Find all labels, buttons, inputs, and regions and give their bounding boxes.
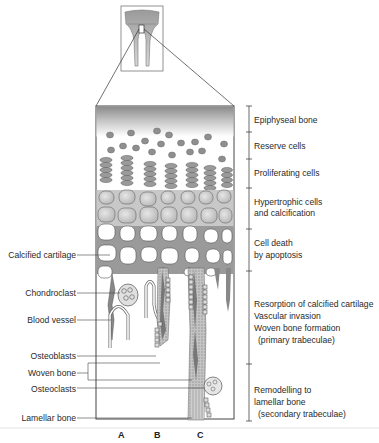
zone-label-resorption: Resorption of calcified cartilage (254, 299, 373, 310)
zone-label-cell-death: Cell death (254, 238, 293, 249)
zone-label-lamellar-bone: lamellar bone (254, 397, 306, 408)
zone-label-hypertrophic: Hypertrophic cells (254, 197, 322, 208)
zone-scale-bar (246, 106, 252, 421)
label-woven-bone: Woven bone (28, 368, 76, 379)
zone-label-remodelling: Remodelling to (254, 385, 311, 396)
zone-label-primary-trabeculae: (primary trabeculae) (258, 335, 335, 346)
chondroclast (118, 284, 138, 306)
column-label-b: B (154, 430, 161, 440)
inset-bone (121, 6, 163, 71)
column-label-a: A (118, 430, 125, 440)
label-lamellar-bone: Lamellar bone (22, 413, 76, 424)
zone-label-secondary-trabeculae: (secondary trabeculae) (258, 409, 346, 420)
zone-label-epiphyseal-bone: Epiphyseal bone (254, 115, 318, 126)
zone-label-hypertrophic-2: and calcification (254, 208, 315, 219)
label-chondroclast: Chondroclast (25, 288, 76, 299)
label-osteoblasts: Osteoblasts (31, 351, 76, 362)
zone-label-vascular-invasion: Vascular invasion (254, 311, 321, 322)
zone-label-proliferating: Proliferating cells (254, 168, 319, 179)
label-blood-vessel: Blood vessel (27, 315, 76, 326)
label-calcified-cartilage: Calcified cartilage (8, 250, 76, 261)
osteoclast (204, 377, 222, 395)
zone-label-woven-bone-formation: Woven bone formation (254, 323, 340, 334)
zone-label-reserve-cells: Reserve cells (254, 141, 306, 152)
growth-plate-panel (96, 106, 234, 420)
column-label-c: C (197, 430, 204, 440)
label-osteoclasts: Osteoclasts (31, 384, 76, 395)
zone-label-cell-death-2: by apoptosis (254, 250, 302, 261)
